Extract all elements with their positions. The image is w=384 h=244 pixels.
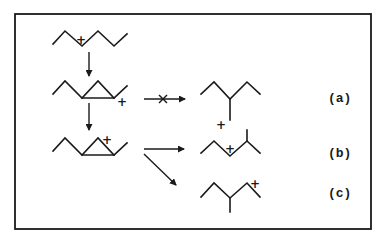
intermediate-cyclopropane-1: + [53, 81, 127, 109]
product-label-c: (c) [328, 186, 351, 201]
product-c-molecule: + [201, 177, 260, 212]
product-b-molecule: + [201, 130, 260, 156]
product-label-a: (a) [328, 91, 351, 106]
product-label-b: (b) [328, 146, 351, 161]
product-a-molecule: + [201, 82, 260, 132]
positive-charge-icon: + [102, 133, 112, 147]
reactant-molecule: + [53, 31, 127, 47]
positive-charge-icon: + [216, 118, 226, 132]
positive-charge-icon: + [225, 142, 235, 156]
intermediate-cyclopropane-2: + [53, 133, 127, 155]
blocked-arrow [144, 95, 185, 103]
positive-charge-icon: + [76, 33, 86, 47]
reaction-diagram: + + + + + + (a) (b) [0, 0, 384, 244]
positive-charge-icon: + [117, 95, 127, 109]
arrow-diagonal-icon [144, 154, 176, 185]
diagram-frame [15, 14, 371, 229]
positive-charge-icon: + [250, 177, 260, 191]
